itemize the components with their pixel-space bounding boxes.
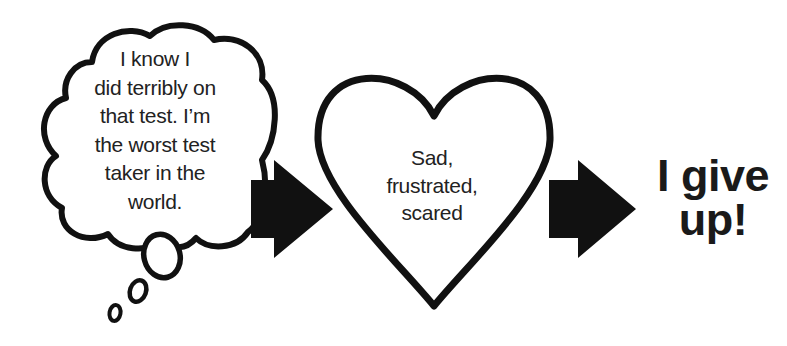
thought-line: world.	[60, 188, 250, 217]
thought-line: I know I	[60, 45, 250, 74]
thought-text: I know I did terribly on that test. I’m …	[60, 45, 250, 216]
behavior-line: I give	[648, 154, 778, 198]
behavior-line: up!	[648, 198, 778, 242]
thought-line: that test. I’m	[60, 102, 250, 131]
feeling-line: frustrated,	[362, 172, 502, 200]
feeling-line: scared	[362, 199, 502, 227]
feeling-line: Sad,	[362, 144, 502, 172]
feeling-text: Sad, frustrated, scared	[362, 144, 502, 227]
arrow-right-icon	[549, 160, 636, 258]
thought-bubble-medium	[127, 278, 150, 304]
thought-bubble-small	[108, 304, 122, 322]
thought-line: did terribly on	[60, 74, 250, 103]
thought-line: taker in the	[60, 159, 250, 188]
behavior-text: I give up!	[648, 154, 778, 242]
thought-line: the worst test	[60, 131, 250, 160]
